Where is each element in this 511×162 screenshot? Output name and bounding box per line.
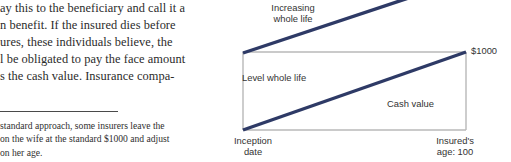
annotation-increasing-whole-life-line1: Increasing bbox=[253, 2, 333, 13]
x-axis-label-inception-line1: Inception bbox=[223, 135, 283, 146]
x-axis-label-insured-line2: age: 100 bbox=[424, 146, 486, 157]
annotation-increasing-whole-life-line2: whole life bbox=[253, 13, 333, 24]
x-axis-label-inception-date: Inception date bbox=[223, 135, 283, 157]
insurance-chart-figure: Increasing whole life Level whole life C… bbox=[220, 0, 511, 162]
footnote-separator-rule bbox=[0, 111, 118, 112]
body-text-block: ay this to the beneficiary and call it a… bbox=[0, 0, 222, 100]
body-text-line: s the cash value. Insurance compa- bbox=[0, 68, 222, 85]
x-axis-label-insured-age: Insured's age: 100 bbox=[424, 135, 486, 157]
series-cash-value bbox=[243, 52, 466, 130]
annotation-level-whole-life: Level whole life bbox=[242, 72, 306, 83]
body-text-line: ay this to the beneficiary and call it a bbox=[0, 0, 222, 17]
footnote-text-block: standard approach, some insurers leave t… bbox=[0, 119, 222, 162]
body-text-line: n benefit. If the insured dies before bbox=[0, 17, 222, 34]
annotation-increasing-whole-life: Increasing whole life bbox=[253, 2, 333, 24]
x-axis-label-inception-line2: date bbox=[223, 146, 283, 157]
page-root: ay this to the beneficiary and call it a… bbox=[0, 0, 511, 162]
annotation-cash-value: Cash value bbox=[387, 98, 434, 109]
footnote-line: a "linearity policy" covering one parent… bbox=[0, 159, 222, 162]
footnote-line: on the wife at the standard $1000 and ad… bbox=[0, 132, 222, 145]
body-text-line: ures, these individuals believe, the bbox=[0, 34, 222, 51]
body-text-line: l be obligated to pay the face amount bbox=[0, 51, 222, 68]
footnote-line: on her age. bbox=[0, 146, 222, 159]
x-axis-label-insured-line1: Insured's bbox=[424, 135, 486, 146]
footnote-line: standard approach, some insurers leave t… bbox=[0, 119, 222, 132]
y-axis-tick-label-face-amount: $1000 bbox=[471, 45, 497, 56]
